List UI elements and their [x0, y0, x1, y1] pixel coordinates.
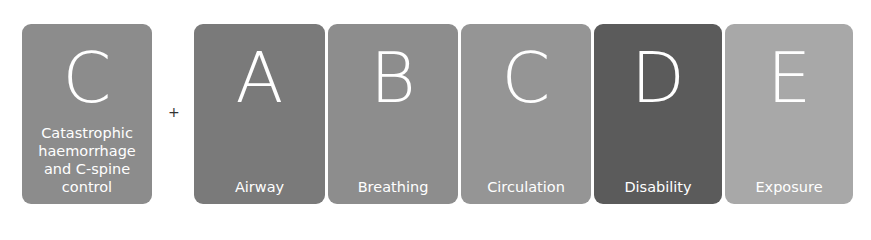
card-label: Breathing: [328, 178, 458, 196]
card-letter: D: [594, 38, 722, 118]
card-label: Exposure: [725, 178, 853, 196]
card-disability: D Disability: [594, 24, 722, 204]
card-letter: A: [194, 38, 325, 118]
card-letter: E: [725, 38, 853, 118]
card-airway: A Airway: [194, 24, 325, 204]
card-breathing: B Breathing: [328, 24, 458, 204]
plus-operator: +: [168, 104, 180, 120]
card-label: Catastrophic haemorrhage and C-spine con…: [22, 124, 152, 196]
card-label: Circulation: [461, 178, 591, 196]
card-catastrophic-haemorrhage: C Catastrophic haemorrhage and C-spine c…: [22, 24, 152, 204]
card-exposure: E Exposure: [725, 24, 853, 204]
card-circulation: C Circulation: [461, 24, 591, 204]
card-label: Airway: [194, 178, 325, 196]
card-letter: C: [22, 38, 152, 118]
card-letter: C: [461, 38, 591, 118]
card-label: Disability: [594, 178, 722, 196]
card-letter: B: [328, 38, 458, 118]
